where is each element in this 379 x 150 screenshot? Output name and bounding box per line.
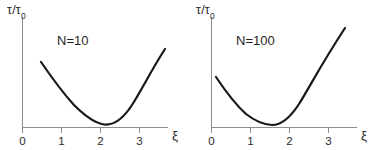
series-annotation-n10: N=10 [57, 34, 88, 47]
y-axis-label-n100: τ/τ0 [196, 4, 215, 19]
x-axis-label-n10: ξ [172, 129, 178, 143]
x-axis-label-n100: ξ [361, 129, 367, 143]
chart-canvas-n100 [189, 0, 379, 150]
y-axis-label-n10: τ/τ0 [7, 4, 26, 19]
data-curve-n10 [41, 49, 165, 125]
x-ticklabel-1: 1 [244, 136, 258, 148]
y-axis-label-text: τ/τ [7, 3, 21, 17]
x-ticklabel-1: 1 [55, 136, 69, 148]
x-ticklabel-2: 2 [94, 136, 108, 148]
x-ticklabel-0: 0 [205, 136, 219, 148]
y-axis-label-subscript: 0 [21, 11, 26, 21]
y-axis-label-subscript: 0 [210, 11, 215, 21]
x-ticklabel-3: 3 [133, 136, 147, 148]
chart-panel-n100: τ/τ0 N=100 ξ 0 1 2 3 [189, 0, 379, 150]
x-ticklabel-3: 3 [322, 136, 336, 148]
y-axis-label-text: τ/τ [196, 3, 210, 17]
series-annotation-n100: N=100 [236, 34, 275, 47]
chart-canvas-n10 [0, 0, 190, 150]
chart-panel-n10: τ/τ0 N=10 ξ 0 1 2 3 [0, 0, 190, 150]
figure-two-panel-tau-vs-xi: τ/τ0 N=10 ξ 0 1 2 3 τ/τ0 N=100 ξ 0 1 2 3 [0, 0, 379, 150]
x-ticklabel-2: 2 [283, 136, 297, 148]
x-ticklabel-0: 0 [16, 136, 30, 148]
